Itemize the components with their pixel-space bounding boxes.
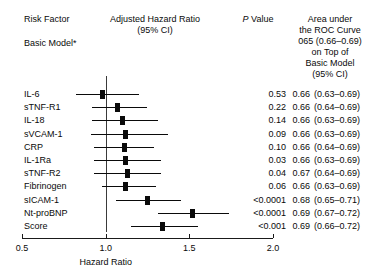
column-header-auc-line4: on Top of xyxy=(286,47,374,58)
auc-estimate: 0.66 xyxy=(286,88,310,101)
auc-cell: 0.66(0.64–0.69) xyxy=(286,141,374,154)
auc-estimate: 0.66 xyxy=(286,128,310,141)
auc-cell: 0.68(0.65–0.71) xyxy=(286,194,374,207)
auc-cell: 0.67(0.64–0.69) xyxy=(286,167,374,180)
column-header-auc-line3: 065 (0.66–0.69) xyxy=(286,36,374,47)
x-axis-tick-label: 1.0 xyxy=(86,243,126,254)
auc-confidence-interval: (0.64–0.69) xyxy=(314,101,360,114)
auc-estimate: 0.69 xyxy=(286,220,310,233)
column-header-hazard-ratio-line1: Adjusted Hazard Ratio xyxy=(110,14,200,24)
auc-estimate: 0.66 xyxy=(286,114,310,127)
p-value-cell: 0.22 xyxy=(214,101,286,114)
row-label-il-18: IL-18 xyxy=(24,114,45,127)
p-value-cell: 0.06 xyxy=(214,180,286,193)
auc-confidence-interval: (0.63–0.69) xyxy=(314,154,360,167)
column-header-hazard-ratio: Adjusted Hazard Ratio (95% CI) xyxy=(90,14,220,36)
table-row: sVCAM-10.090.66(0.63–0.69) xyxy=(0,128,376,141)
auc-confidence-interval: (0.66–0.72) xyxy=(314,220,360,233)
x-axis-tick-label: 1.5 xyxy=(169,243,209,254)
auc-cell: 0.66(0.63–0.69) xyxy=(286,180,374,193)
row-label-score: Score xyxy=(24,220,48,233)
auc-estimate: 0.67 xyxy=(286,167,310,180)
row-label-svcam-1: sVCAM-1 xyxy=(24,128,63,141)
p-value-cell: <0.001 xyxy=(214,220,286,233)
column-header-hazard-ratio-line2: (95% CI) xyxy=(90,25,220,36)
row-label-stnf-r2: sTNF-R2 xyxy=(24,167,61,180)
x-axis-line xyxy=(22,238,273,239)
p-value-cell: <0.0001 xyxy=(214,207,286,220)
auc-cell: 0.66(0.63–0.69) xyxy=(286,88,374,101)
x-axis-tick-label: 2.0 xyxy=(253,243,293,254)
column-header-auc-line5: Basic Model xyxy=(286,58,374,69)
auc-cell: 0.66(0.63–0.69) xyxy=(286,154,374,167)
forest-plot-figure: Risk Factor Basic Model* Adjusted Hazard… xyxy=(0,0,376,278)
table-row: CRP0.100.66(0.64–0.69) xyxy=(0,141,376,154)
auc-confidence-interval: (0.64–0.69) xyxy=(314,167,360,180)
p-value-cell: <0.0001 xyxy=(214,194,286,207)
auc-confidence-interval: (0.63–0.69) xyxy=(314,114,360,127)
p-value-cell: 0.14 xyxy=(214,114,286,127)
p-value-cell: 0.53 xyxy=(214,88,286,101)
table-row: IL-60.530.66(0.63–0.69) xyxy=(0,88,376,101)
table-row: Score<0.0010.69(0.66–0.72) xyxy=(0,220,376,233)
auc-estimate: 0.69 xyxy=(286,207,310,220)
table-row: Fibrinogen0.060.66(0.63–0.69) xyxy=(0,180,376,193)
column-header-p-value: P Value xyxy=(230,14,286,25)
auc-cell: 0.66(0.64–0.69) xyxy=(286,101,374,114)
auc-confidence-interval: (0.64–0.69) xyxy=(314,141,360,154)
table-row: sTNF-R20.040.67(0.64–0.69) xyxy=(0,167,376,180)
auc-estimate: 0.66 xyxy=(286,180,310,193)
basic-model-label: Basic Model* xyxy=(24,38,77,49)
p-value-cell: 0.10 xyxy=(214,141,286,154)
auc-cell: 0.66(0.63–0.69) xyxy=(286,114,374,127)
column-header-auc-line2: the ROC Curve xyxy=(286,25,374,36)
x-axis-tick xyxy=(189,234,190,238)
auc-confidence-interval: (0.63–0.69) xyxy=(314,128,360,141)
row-label-nt-probnp: Nt-proBNP xyxy=(24,207,68,220)
auc-estimate: 0.66 xyxy=(286,101,310,114)
auc-confidence-interval: (0.65–0.71) xyxy=(314,194,360,207)
x-axis-tick xyxy=(273,234,274,238)
auc-cell: 0.69(0.67–0.72) xyxy=(286,207,374,220)
column-header-auc-line6: (95% CI) xyxy=(286,69,374,80)
column-header-risk-factor: Risk Factor xyxy=(24,14,70,25)
auc-confidence-interval: (0.63–0.69) xyxy=(314,88,360,101)
auc-cell: 0.69(0.66–0.72) xyxy=(286,220,374,233)
table-row: IL-1Ra0.030.66(0.63–0.69) xyxy=(0,154,376,167)
x-axis-tick-label: 0.5 xyxy=(2,243,42,254)
row-label-il-1ra: IL-1Ra xyxy=(24,154,51,167)
auc-cell: 0.66(0.63–0.69) xyxy=(286,128,374,141)
auc-estimate: 0.68 xyxy=(286,194,310,207)
auc-estimate: 0.66 xyxy=(286,154,310,167)
row-label-sicam-1: sICAM-1 xyxy=(24,194,59,207)
x-axis-title: Hazard Ratio xyxy=(46,257,166,268)
table-row: IL-180.140.66(0.63–0.69) xyxy=(0,114,376,127)
row-label-il-6: IL-6 xyxy=(24,88,40,101)
auc-confidence-interval: (0.67–0.72) xyxy=(314,207,360,220)
row-label-fibrinogen: Fibrinogen xyxy=(24,180,67,193)
table-row: sTNF-R10.220.66(0.64–0.69) xyxy=(0,101,376,114)
column-header-auc: Area underthe ROC Curve065 (0.66–0.69)on… xyxy=(286,14,374,80)
auc-confidence-interval: (0.63–0.69) xyxy=(314,180,360,193)
column-header-p-value-rest: Value xyxy=(249,14,274,24)
row-label-crp: CRP xyxy=(24,141,43,154)
p-value-cell: 0.04 xyxy=(214,167,286,180)
row-label-stnf-r1: sTNF-R1 xyxy=(24,101,61,114)
x-axis-tick xyxy=(22,234,23,238)
column-header-auc-line1: Area under xyxy=(286,14,374,25)
table-row: sICAM-1<0.00010.68(0.65–0.71) xyxy=(0,194,376,207)
p-value-cell: 0.09 xyxy=(214,128,286,141)
p-value-cell: 0.03 xyxy=(214,154,286,167)
table-row: Nt-proBNP<0.00010.69(0.67–0.72) xyxy=(0,207,376,220)
x-axis-tick xyxy=(106,234,107,238)
auc-estimate: 0.66 xyxy=(286,141,310,154)
